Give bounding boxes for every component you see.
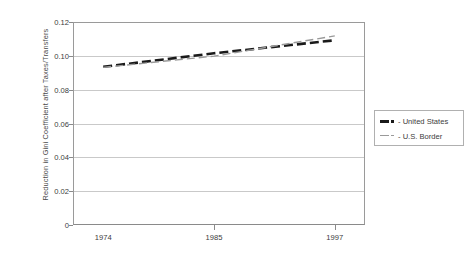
- legend: - United States - U.S. Border: [374, 110, 464, 146]
- y-tick-label: 0.06: [35, 119, 69, 128]
- y-tick-label: 0: [35, 221, 69, 230]
- legend-item-us-border: - U.S. Border: [380, 130, 442, 142]
- x-tick-mark: [335, 225, 336, 230]
- legend-label-united-states: - United States: [398, 117, 448, 126]
- legend-swatch-us-border-icon: [380, 131, 396, 141]
- y-tick-label: 0.12: [35, 18, 69, 27]
- data-series-line: [103, 40, 335, 67]
- chart-figure: Reduction in Gini Coefficient after Taxe…: [0, 0, 470, 267]
- y-tick-label: 0.04: [35, 153, 69, 162]
- x-tick-label: 1985: [184, 233, 244, 242]
- x-tick-label: 1997: [305, 233, 365, 242]
- y-tick-mark: [69, 225, 73, 226]
- data-series-layer: [73, 22, 365, 225]
- x-tick-label: 1974: [73, 233, 133, 242]
- y-tick-label: 0.08: [35, 85, 69, 94]
- legend-item-united-states: - United States: [380, 115, 448, 127]
- legend-swatch-united-states-icon: [380, 116, 396, 126]
- y-tick-label: 0.02: [35, 187, 69, 196]
- legend-label-us-border: - U.S. Border: [398, 132, 442, 141]
- x-tick-mark: [214, 225, 215, 230]
- y-tick-label: 0.10: [35, 51, 69, 60]
